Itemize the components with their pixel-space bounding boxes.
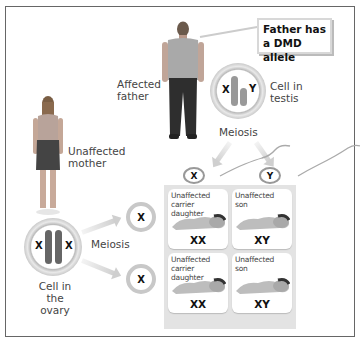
- genotype-label: XX: [168, 234, 228, 246]
- father-meiosis-label: Meiosis: [219, 126, 258, 138]
- baby-icon: [234, 275, 290, 295]
- egg-lower: X: [126, 264, 156, 294]
- testis-cell-label: Cell in testis: [270, 80, 303, 104]
- ovary-chromosome-x1-label: X: [35, 240, 43, 251]
- mother-figure-icon: [32, 96, 64, 216]
- sperm-x: X: [183, 167, 205, 184]
- father-figure-icon: [160, 20, 206, 142]
- sperm-y: Y: [259, 167, 281, 184]
- mother-label: Unaffected mother: [68, 145, 125, 169]
- x-chromosome-icon: [45, 230, 52, 264]
- testis-chromosome-x-label: X: [222, 84, 230, 95]
- offspring-card: Unaffected carrier daughter XX: [168, 253, 228, 313]
- ovary-cell-label: Cell in the ovary: [32, 280, 78, 316]
- testis-cell: X Y: [210, 63, 266, 119]
- genotype-label: XY: [232, 234, 292, 246]
- father-label: Affected father: [117, 78, 161, 102]
- callout-line-2: a DMD allele: [263, 36, 326, 64]
- ovary-cell: X X: [24, 218, 82, 276]
- offspring-card: Unaffected carrier daughter XX: [168, 189, 228, 249]
- testis-chromosome-y-label: Y: [249, 83, 256, 94]
- baby-icon: [170, 275, 226, 295]
- x-chromosome-icon: [55, 230, 62, 264]
- egg-upper: X: [126, 202, 156, 232]
- y-chromosome-icon: [240, 88, 247, 106]
- callout-line-1: Father has: [263, 22, 326, 36]
- x-chromosome-icon: [231, 76, 238, 106]
- baby-icon: [234, 211, 290, 231]
- offspring-card: Unaffected son XY: [232, 253, 292, 313]
- baby-icon: [170, 211, 226, 231]
- genotype-label: XY: [232, 298, 292, 310]
- genotype-label: XX: [168, 298, 228, 310]
- offspring-grid: Unaffected carrier daughter XX Unaffecte…: [164, 185, 296, 329]
- mother-meiosis-label: Meiosis: [91, 238, 130, 250]
- dmd-allele-callout: Father has a DMD allele: [257, 18, 332, 54]
- offspring-card: Unaffected son XY: [232, 189, 292, 249]
- ovary-chromosome-x2-label: X: [65, 240, 73, 251]
